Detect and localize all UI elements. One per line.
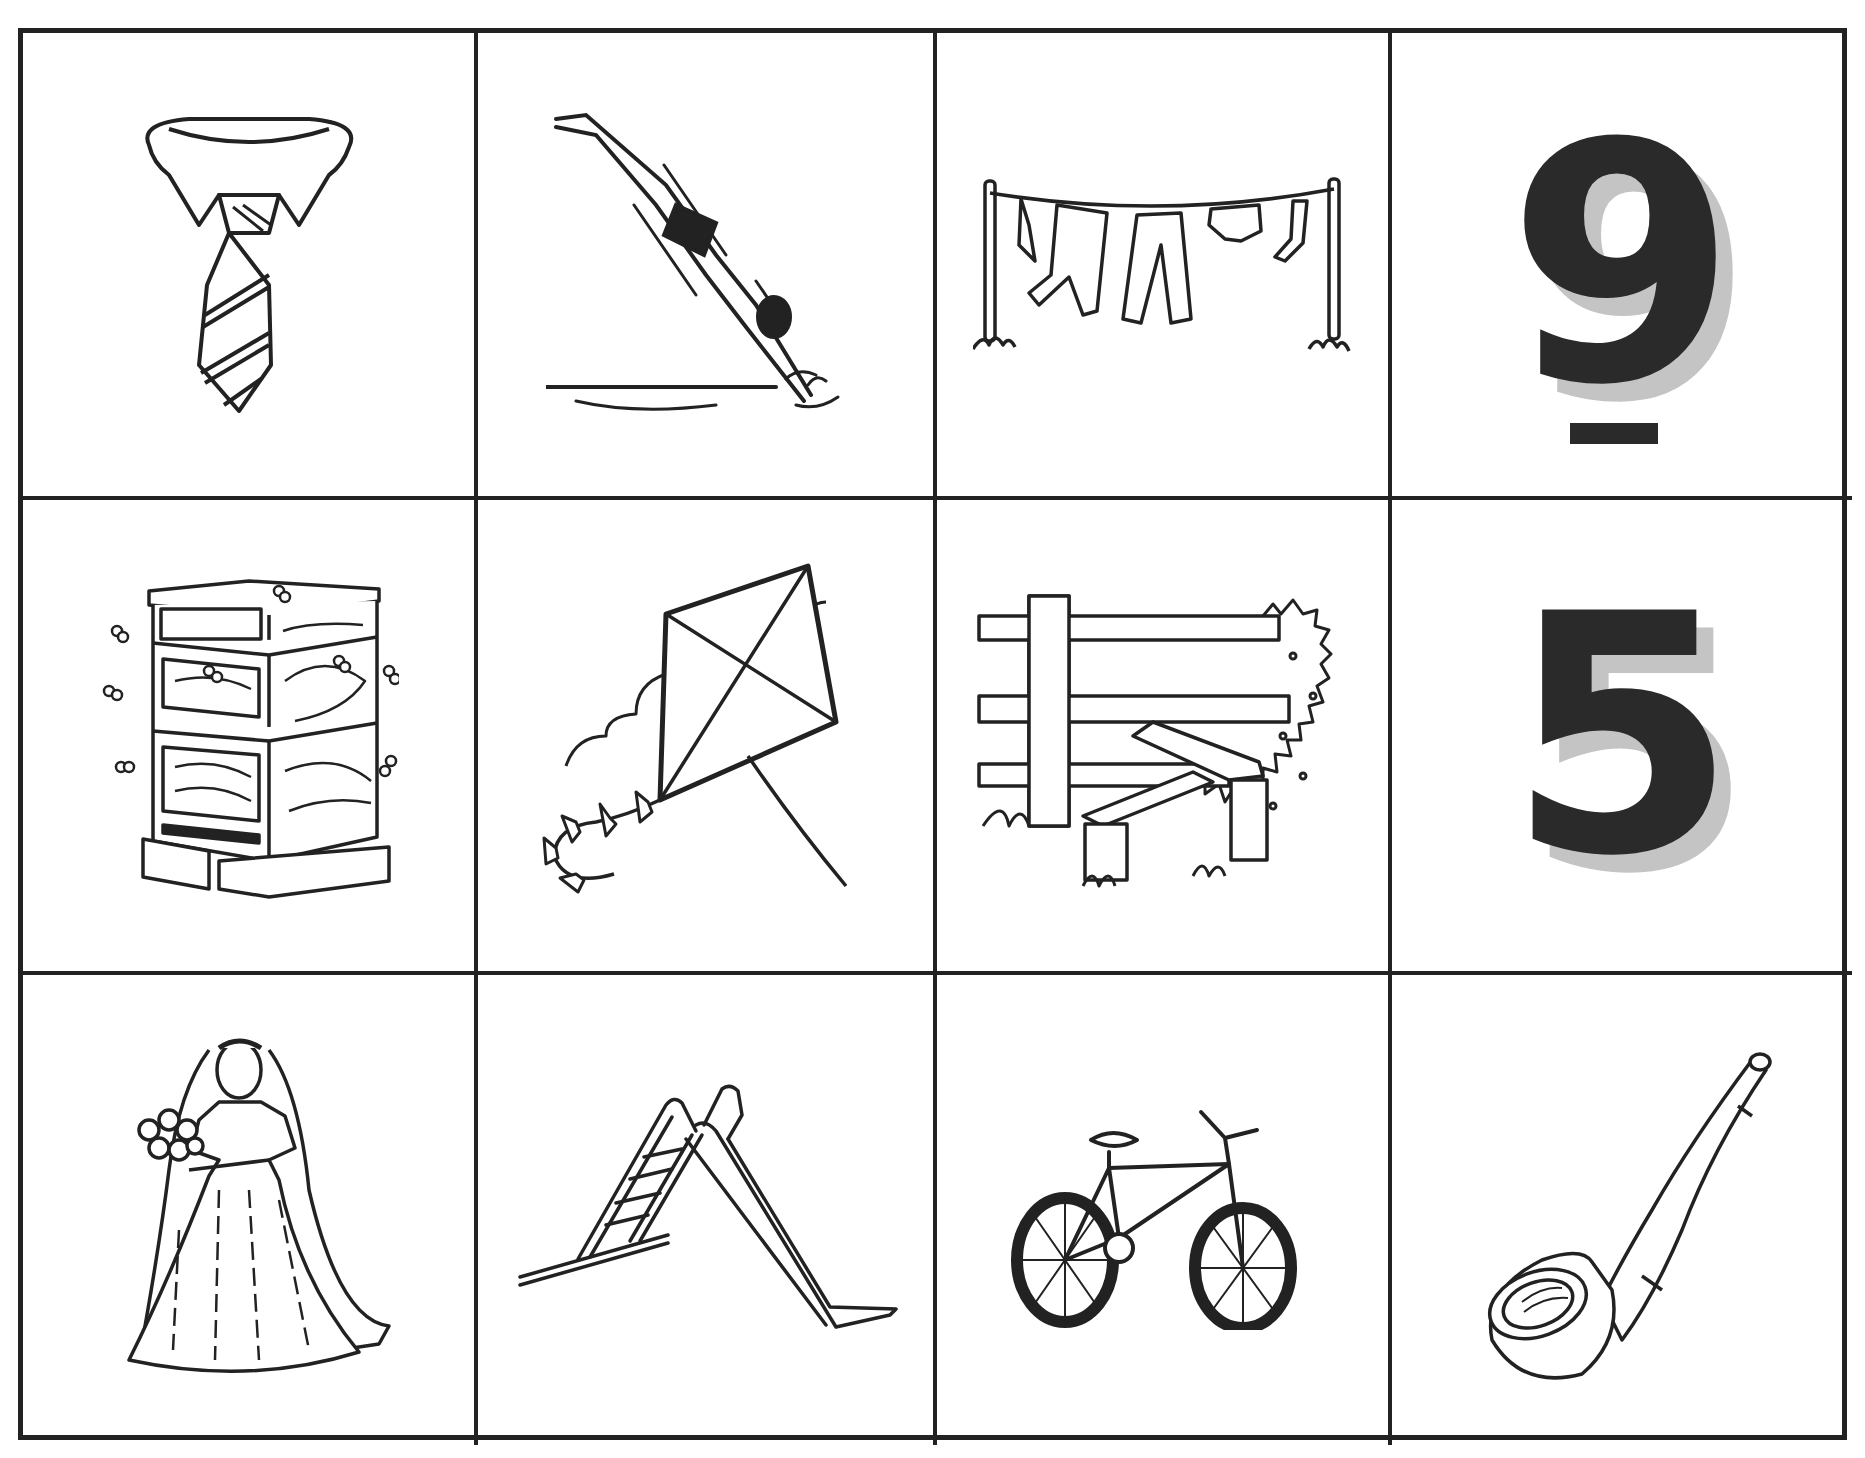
card-bicycle: bicycle [937, 975, 1392, 1445]
card-necktie: necktie with shirt collar [23, 33, 478, 500]
necktie-icon [129, 115, 369, 415]
bicycle-icon [1003, 1090, 1323, 1330]
card-kite: kite with tail and clouds [478, 500, 937, 975]
beehive-icon [99, 571, 399, 901]
card-numeral-5: 5 5 [1392, 500, 1852, 975]
numeral-value: 9 [1492, 85, 1752, 445]
slide-icon [506, 1075, 906, 1345]
diver-icon [546, 105, 866, 425]
card-clothesline: washing line with clothes [937, 33, 1392, 500]
clothesline-icon [973, 165, 1353, 365]
card-stile: wooden fence stile with bush [937, 500, 1392, 975]
picture-card-grid: necktie with shirt collar diver diving i… [18, 28, 1847, 1440]
numeral-9: 9 9 [1492, 85, 1752, 445]
card-numeral-9: 9 9 [1392, 33, 1852, 500]
numeral-underline [1570, 423, 1658, 444]
pipe-icon [1462, 1040, 1782, 1380]
card-pipe: smoking pipe [1392, 975, 1852, 1445]
stile-icon [973, 576, 1353, 896]
card-bride: bride with bouquet and veil [23, 975, 478, 1445]
numeral-value: 5 [1492, 556, 1752, 916]
card-diver: diver diving into water [478, 33, 937, 500]
kite-icon [536, 556, 876, 916]
numeral-5: 5 5 [1492, 556, 1752, 916]
card-slide: playground slide [478, 975, 937, 1445]
card-beehive: beehive with bees [23, 500, 478, 975]
bride-icon [99, 1030, 399, 1390]
